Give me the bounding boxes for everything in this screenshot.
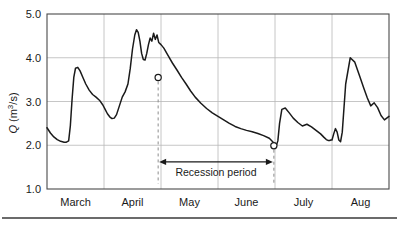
- x-month-label: April: [121, 196, 143, 208]
- y-axis-close: /s): [7, 92, 19, 104]
- x-month-label: Aug: [351, 196, 371, 208]
- x-month-label: May: [179, 196, 200, 208]
- data-point-marker: [155, 74, 161, 80]
- svg-text:Q (m3/s): Q (m3/s): [6, 92, 19, 133]
- data-point-marker: [271, 143, 277, 149]
- y-axis-open: (m: [7, 109, 19, 125]
- recession-period-label: Recession period: [175, 166, 256, 178]
- y-tick-label: 5.0: [26, 8, 41, 20]
- y-tick-label: 3.0: [26, 96, 41, 108]
- x-month-label: June: [235, 196, 259, 208]
- x-month-label: March: [60, 196, 91, 208]
- hydrograph-figure: 1.02.03.04.05.0 MarchAprilMayJuneJulyAug…: [0, 0, 399, 226]
- recession-period-annotation: Recession period: [159, 159, 273, 178]
- x-month-label: July: [294, 196, 314, 208]
- y-tick-label: 2.0: [26, 139, 41, 151]
- chart-background: [0, 0, 399, 226]
- y-tick-label: 4.0: [26, 52, 41, 64]
- y-axis-title: Q (m3/s): [6, 92, 19, 133]
- discharge-time-series-chart: 1.02.03.04.05.0 MarchAprilMayJuneJulyAug…: [0, 0, 399, 226]
- y-tick-label: 1.0: [26, 183, 41, 195]
